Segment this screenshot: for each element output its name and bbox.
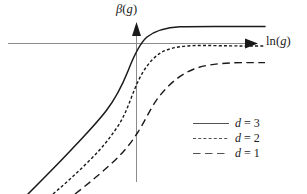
legend-item-d1: d = 1 xyxy=(193,146,273,161)
legend-swatch-short-dashed xyxy=(193,138,229,139)
legend-value-d1: = 1 xyxy=(241,146,260,160)
plot-area xyxy=(0,0,307,194)
x-axis-label: ln(g) xyxy=(266,34,291,49)
legend-label-d2: d = 2 xyxy=(235,131,260,146)
legend-item-d2: d = 2 xyxy=(193,131,273,146)
legend: d = 3 d = 2 d = 1 xyxy=(193,116,273,161)
legend-swatch-long-dashed xyxy=(193,153,229,154)
y-axis-label: β(g) xyxy=(116,2,137,17)
beta-function-chart: β(g) ln(g) d = 3 d = 2 d = 1 xyxy=(0,0,307,194)
legend-value-d3: = 3 xyxy=(241,116,260,130)
legend-item-d3: d = 3 xyxy=(193,116,273,131)
legend-swatch-solid xyxy=(193,123,229,124)
legend-label-d1: d = 1 xyxy=(235,146,260,161)
legend-value-d2: = 2 xyxy=(241,131,260,145)
legend-label-d3: d = 3 xyxy=(235,116,260,131)
x-axis-arrowhead xyxy=(245,39,258,49)
y-axis-arrowhead xyxy=(132,22,141,36)
curve-d3 xyxy=(28,26,265,194)
